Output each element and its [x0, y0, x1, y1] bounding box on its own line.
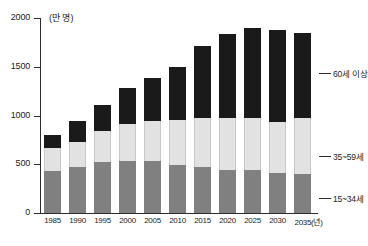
bar-segment-15-34: [44, 171, 61, 213]
leader-line-60-plus: [319, 73, 331, 74]
x-axis-tick-label: 2025: [240, 216, 266, 225]
bar-group: [169, 67, 186, 213]
x-axis-tick-label: 1990: [65, 216, 91, 225]
bar-segment-15-34: [244, 170, 261, 213]
bar-group: [44, 135, 61, 213]
bar-segment-15-34: [169, 165, 186, 213]
bar-group: [244, 28, 261, 213]
bar-segment-15-34: [194, 167, 211, 213]
bar-segment-35-59: [244, 118, 261, 170]
y-axis-tick-label: 1000: [11, 110, 30, 120]
bar-segment-15-34: [294, 174, 311, 213]
x-axis-tick-label: 2020: [215, 216, 241, 225]
bar-group: [194, 46, 211, 213]
bar-group: [269, 30, 286, 213]
bar-segment-60-plus: [44, 135, 61, 148]
legend-callout-15-34-label: 15~34세: [333, 194, 364, 204]
bar-segment-60-plus: [144, 78, 161, 121]
bar-segment-35-59: [94, 131, 111, 163]
bar-segment-35-59: [294, 118, 311, 174]
bar-group: [94, 105, 111, 213]
bar-segment-15-34: [119, 161, 136, 213]
x-axis-tick-label: 2010: [165, 216, 191, 225]
bar-segment-60-plus: [244, 28, 261, 119]
y-axis-tick-label: 1500: [11, 61, 30, 71]
y-axis-tick: 500: [34, 164, 41, 165]
bar-segment-35-59: [219, 118, 236, 170]
bar-group: [69, 121, 86, 213]
bar-segment-35-59: [269, 122, 286, 173]
legend-callout-15-34: 15~34세: [333, 192, 364, 204]
y-axis-tick-label: 2000: [11, 12, 30, 22]
bar-segment-35-59: [194, 118, 211, 167]
legend-callout-35-59-label: 35~59세: [333, 152, 364, 162]
bar-segment-15-34: [94, 162, 111, 213]
x-axis-tick-label: 2035(년): [289, 216, 329, 227]
bar-segment-35-59: [169, 120, 186, 165]
bar-segment-35-59: [69, 142, 86, 167]
bar-series-container: [41, 18, 318, 213]
bar-segment-60-plus: [219, 34, 236, 118]
legend-callout-35-59: 35~59세: [333, 150, 364, 162]
bar-segment-60-plus: [169, 67, 186, 120]
bar-group: [219, 34, 236, 213]
bar-group: [119, 88, 136, 213]
bar-segment-35-59: [119, 124, 136, 161]
x-axis-line: [40, 213, 318, 214]
bar-segment-35-59: [44, 148, 61, 171]
bar-segment-60-plus: [269, 30, 286, 123]
x-axis-tick-label: 2005: [140, 216, 166, 225]
x-axis-tick-label: 2000: [115, 216, 141, 225]
y-axis-tick: 0: [34, 213, 41, 214]
bar-group: [294, 33, 311, 213]
bar-segment-15-34: [144, 161, 161, 213]
x-axis-tick-label: 1995: [90, 216, 116, 225]
leader-line-15-34: [319, 198, 331, 199]
bar-segment-60-plus: [294, 33, 311, 119]
x-axis-tick-label: 2030: [265, 216, 291, 225]
bar-segment-60-plus: [94, 105, 111, 131]
legend-callout-60-plus-label: 60세 이상: [333, 69, 368, 79]
bar-group: [144, 78, 161, 213]
y-axis-tick-label: 0: [25, 207, 30, 217]
bar-segment-15-34: [69, 167, 86, 213]
y-axis-tick: 1500: [34, 67, 41, 68]
bar-segment-15-34: [219, 170, 236, 213]
top-margin: [0, 0, 349, 4]
leader-line-35-59: [319, 156, 331, 157]
bar-segment-35-59: [144, 121, 161, 161]
bar-segment-60-plus: [69, 121, 86, 142]
legend-callout-60-plus: 60세 이상: [333, 67, 368, 79]
bar-segment-60-plus: [194, 46, 211, 118]
bar-segment-15-34: [269, 173, 286, 213]
y-axis-tick: 2000: [34, 18, 41, 19]
x-axis-tick-label: 1985: [40, 216, 66, 225]
bar-segment-60-plus: [119, 88, 136, 124]
y-axis-tick: 1000: [34, 116, 41, 117]
y-axis-tick-label: 500: [16, 158, 30, 168]
x-axis-tick-label: 2015: [190, 216, 216, 225]
